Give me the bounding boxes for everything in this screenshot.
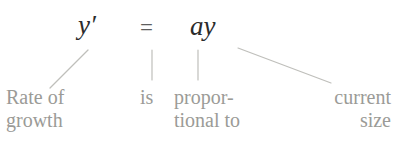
annotation-current-size: current size xyxy=(296,86,391,132)
connector-line-lhs-to-growth xyxy=(50,50,88,88)
annotation-rate-of-growth: Rate of growth xyxy=(6,86,126,132)
connector-line-rhs-y-to-size xyxy=(238,48,331,83)
annotation-proportional-to: propor- tional to xyxy=(174,86,286,132)
equation-annotation-diagram: y′ = ay Rate of growth is propor- tional… xyxy=(0,0,395,144)
annotation-is: is xyxy=(140,86,168,109)
